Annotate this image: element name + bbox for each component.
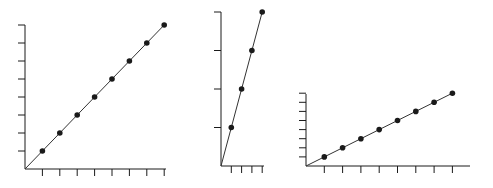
data-point [74,112,80,118]
data-point [322,154,328,160]
data-point [92,94,98,100]
data-point [40,148,46,154]
chart-1-steady-slope [18,22,167,176]
data-point [57,130,63,136]
data-point [413,109,419,115]
data-point [229,125,235,131]
chart-2-steep-slope [214,9,265,173]
data-point [161,22,167,28]
data-point [358,136,364,142]
data-point [450,90,456,96]
chart-3-shallow-slope [299,90,470,173]
data-point [376,127,382,133]
data-point [259,9,265,15]
data-point [144,40,150,46]
data-point [395,118,401,124]
data-point [239,86,245,92]
figure-canvas [0,0,493,188]
data-point [127,58,133,64]
data-point [340,145,346,151]
data-point [109,76,115,82]
data-point [249,48,255,54]
data-point [431,100,437,106]
